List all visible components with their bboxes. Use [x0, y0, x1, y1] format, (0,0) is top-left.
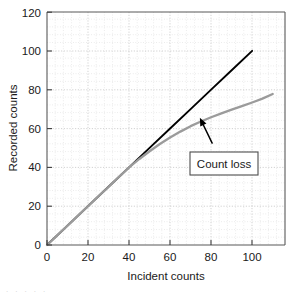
x-tick-label-40: 40 [123, 251, 136, 263]
y-axis-title: Recorded counts [7, 84, 19, 171]
count-loss-line-chart: 0 20 40 60 80 100 120 0 20 40 60 80 100 … [0, 0, 296, 295]
y-tick-label-100: 100 [22, 45, 41, 57]
x-tick-labels: 0 20 40 60 80 100 [44, 251, 262, 263]
x-tick-label-0: 0 [44, 251, 50, 263]
x-axis-title: Incident counts [127, 270, 205, 282]
figure-container: 0 20 40 60 80 100 120 0 20 40 60 80 100 … [0, 0, 296, 295]
y-tick-label-60: 60 [28, 123, 41, 135]
y-tick-label-40: 40 [28, 161, 41, 173]
x-tick-label-80: 80 [205, 251, 218, 263]
page-caption-ghost: . . . . . [6, 285, 290, 294]
y-tick-label-20: 20 [28, 200, 41, 212]
x-tick-label-100: 100 [242, 251, 261, 263]
x-tick-label-20: 20 [82, 251, 95, 263]
y-tick-label-0: 0 [35, 239, 41, 251]
count-loss-label: Count loss [197, 158, 252, 170]
y-tick-label-120: 120 [22, 7, 41, 19]
y-tick-label-80: 80 [28, 84, 41, 96]
y-tick-labels: 0 20 40 60 80 100 120 [22, 7, 41, 251]
x-tick-label-60: 60 [164, 251, 177, 263]
